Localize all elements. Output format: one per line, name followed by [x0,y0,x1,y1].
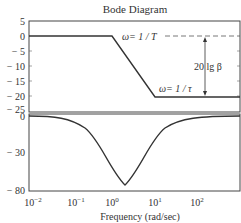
annotation-omega-tau: ω= 1 / τ [159,83,192,94]
annotation-20lg-beta: 20 lg β [194,61,222,72]
svg-text:0: 0 [20,111,25,122]
chart-title: Bode Diagram [103,3,168,15]
annotation-omega-T: ω= 1 / T [122,31,158,42]
svg-text:102: 102 [190,196,204,208]
svg-text:− 20: − 20 [7,91,25,102]
magnitude-y-ticks: 5 0 − 5 − 10 − 15 − 20 − 25 [7,16,25,115]
svg-text:− 30: − 30 [7,147,25,158]
svg-text:10−1: 10−1 [67,196,85,208]
phase-plot-frame [29,114,240,191]
svg-text:100: 100 [105,196,119,208]
svg-text:0: 0 [20,31,25,42]
svg-text:− 10: − 10 [7,61,25,72]
svg-text:10−2: 10−2 [24,196,42,208]
bode-diagram: Bode Diagram 5 0 − 5 − 10 − 15 − 20 − 25… [0,0,241,223]
svg-text:101: 101 [148,196,162,208]
svg-text:− 5: − 5 [12,46,25,57]
svg-text:5: 5 [20,16,25,27]
phase-y-ticks: 0 − 30 − 80 [7,111,25,196]
x-ticks: 10−2 10−1 100 101 102 [24,196,204,208]
svg-text:− 15: − 15 [7,76,25,87]
svg-text:− 80: − 80 [7,185,25,196]
x-axis-label: Frequency (rad/sec) [100,211,180,223]
phase-curve [29,116,240,185]
